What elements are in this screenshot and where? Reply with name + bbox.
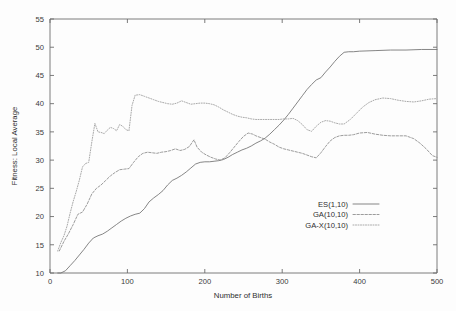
x-tick-label: 400 <box>353 277 366 286</box>
legend-label: ES(1,10) <box>318 200 348 209</box>
x-axis-ticks: 0100200300400500 <box>48 19 443 286</box>
y-tick-label: 35 <box>36 128 44 137</box>
x-tick-label: 500 <box>431 277 444 286</box>
x-tick-label: 100 <box>121 277 134 286</box>
y-tick-label: 15 <box>36 241 44 250</box>
y-tick-label: 40 <box>36 99 44 108</box>
series-line <box>58 49 437 273</box>
legend-label: GA-X(10,10) <box>305 221 348 230</box>
y-axis-ticks: 10152025303540455055 <box>36 15 437 278</box>
chart-figure: 10152025303540455055 0100200300400500 ES… <box>0 0 456 311</box>
y-tick-label: 20 <box>36 212 44 221</box>
x-tick-label: 300 <box>276 277 289 286</box>
series-line <box>59 132 437 251</box>
x-tick-label: 200 <box>198 277 211 286</box>
y-tick-label: 25 <box>36 184 44 193</box>
chart-plot-svg: 10152025303540455055 0100200300400500 ES… <box>0 0 456 311</box>
y-tick-label: 55 <box>36 15 44 24</box>
y-tick-label: 50 <box>36 43 44 52</box>
y-tick-label: 30 <box>36 156 44 165</box>
legend-label: GA(10,10) <box>313 210 349 219</box>
y-tick-label: 45 <box>36 71 44 80</box>
y-axis-title: Fitness: Local Average <box>10 107 19 186</box>
chart-legend: ES(1,10)GA(10,10)GA-X(10,10) <box>305 200 379 230</box>
plot-border <box>50 19 437 273</box>
y-tick-label: 10 <box>36 269 44 278</box>
data-series-group <box>58 49 437 273</box>
x-axis-title: Number of Births <box>214 291 273 300</box>
x-tick-label: 0 <box>48 277 52 286</box>
plot-frame <box>50 19 437 273</box>
